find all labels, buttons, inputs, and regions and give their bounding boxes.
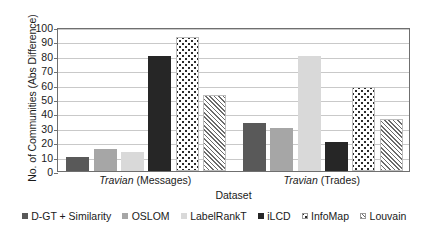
bar	[148, 56, 171, 171]
legend-item[interactable]: Louvain	[360, 210, 406, 222]
plot-area	[57, 28, 410, 172]
legend-item[interactable]: iLCD	[258, 210, 291, 222]
legend-label: iLCD	[267, 210, 290, 222]
bar	[325, 142, 348, 171]
legend-item[interactable]: InfoMap	[302, 210, 349, 222]
bar	[298, 56, 321, 171]
category-name-suffix: (Trades)	[318, 174, 360, 186]
y-axis-tick-label: 30	[22, 124, 53, 134]
legend-label: LabelRankT	[190, 210, 247, 222]
y-axis-tick-labels: 0102030405060708090100	[22, 28, 53, 172]
bar	[380, 119, 403, 171]
category-name-suffix: (Messages)	[133, 174, 191, 186]
y-axis-tick-label: 0	[22, 167, 53, 177]
legend-swatch-icon	[122, 213, 128, 219]
y-axis-tick-label: 100	[22, 23, 53, 33]
y-axis-tick-label: 50	[22, 95, 53, 105]
bar	[243, 123, 266, 171]
y-axis-tick-label: 60	[22, 81, 53, 91]
legend-item[interactable]: OSLOM	[122, 210, 169, 222]
bar	[66, 157, 89, 171]
category-name-italic: Travian	[99, 174, 133, 186]
legend-label: OSLOM	[132, 210, 170, 222]
legend-item[interactable]: LabelRankT	[181, 210, 247, 222]
y-axis-tick-label: 80	[22, 52, 53, 62]
bar	[270, 128, 293, 171]
y-axis-tick-label: 10	[22, 153, 53, 163]
y-axis-tick-label: 20	[22, 138, 53, 148]
legend-label: Louvain	[370, 210, 407, 222]
legend-swatch-icon	[360, 213, 366, 219]
category-name-italic: Travian	[284, 174, 318, 186]
chart-legend: D-GT + SimilarityOSLOMLabelRankTiLCDInfo…	[0, 210, 428, 222]
legend-label: D-GT + Similarity	[31, 210, 111, 222]
bars-layer	[58, 29, 409, 171]
legend-label: InfoMap	[311, 210, 349, 222]
legend-item[interactable]: D-GT + Similarity	[22, 210, 112, 222]
bar	[176, 37, 199, 171]
legend-swatch-icon	[181, 213, 187, 219]
y-axis-tick-label: 90	[22, 37, 53, 47]
y-axis-tick-label: 40	[22, 109, 53, 119]
legend-swatch-icon	[302, 213, 308, 219]
bar	[94, 149, 117, 171]
bar	[352, 87, 375, 171]
legend-swatch-icon	[258, 213, 264, 219]
bar-chart: No. of Communities (Abs Difference) 0102…	[0, 0, 428, 232]
x-axis-category-label: Travian (Trades)	[252, 174, 392, 186]
bar	[121, 152, 144, 171]
x-axis-title: Dataset	[57, 189, 410, 201]
x-axis-category-labels: Travian (Messages)Travian (Trades)	[57, 174, 410, 190]
bar	[203, 95, 226, 171]
x-axis-category-label: Travian (Messages)	[75, 174, 215, 186]
y-axis-tick-label: 70	[22, 66, 53, 76]
legend-swatch-icon	[22, 213, 28, 219]
